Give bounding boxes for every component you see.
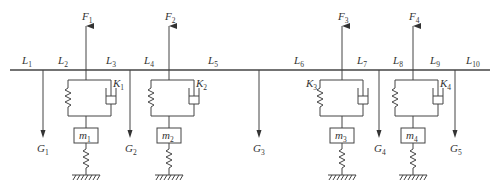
arrow-head-icon (377, 130, 382, 138)
weight-label-1: G1 (37, 142, 49, 157)
force-label-2: F2 (164, 10, 176, 25)
mass-label-1: m1 (79, 129, 91, 144)
damper-icon (358, 80, 368, 116)
arrow-head-icon (128, 130, 133, 138)
vehicle-suspension-diagram: L1L2L3L4L5L6L7L8L9L10 F1F2F3F4 G1G2G3G4G… (0, 0, 496, 190)
spring-icon (392, 80, 398, 116)
length-label-5: L5 (207, 54, 218, 69)
spring-icon (65, 80, 71, 116)
length-label-4: L4 (143, 54, 154, 69)
ground-icon (72, 175, 100, 180)
length-label-7: L7 (356, 54, 367, 69)
suspension-unit-1: K1m1 (65, 70, 124, 180)
length-label-10: L10 (465, 54, 480, 69)
length-label-8: L8 (392, 54, 403, 69)
arrow-head-icon (41, 130, 46, 138)
mass-label-2: m2 (162, 129, 174, 144)
spring-icon (317, 80, 323, 116)
length-label-2: L2 (57, 54, 68, 69)
ground-icon (155, 175, 183, 180)
length-label-9: L9 (429, 54, 440, 69)
stiffness-label-2: K2 (195, 77, 207, 92)
suspension-unit-3: K3m3 (305, 70, 368, 180)
stiffness-label-4: K4 (439, 77, 451, 92)
length-label-3: L3 (105, 54, 116, 69)
stiffness-label-1: K1 (112, 77, 124, 92)
weight-label-2: G2 (125, 142, 137, 157)
arrow-head-icon (257, 130, 262, 138)
ground-icon (328, 175, 356, 180)
length-label-1: L1 (21, 54, 32, 69)
suspension-unit-4: K4m4 (392, 70, 451, 180)
force-label-4: F4 (408, 10, 420, 25)
stiffness-label-3: K3 (305, 77, 317, 92)
weight-label-5: G5 (450, 142, 462, 157)
suspension-units: K1m1K2m2K3m3K4m4 (65, 70, 451, 180)
weight-label-3: G3 (253, 142, 265, 157)
tire-spring-icon (166, 143, 172, 175)
force-arrows: F1F2F3F4 (81, 10, 420, 70)
tire-spring-icon (83, 143, 89, 175)
spring-icon (148, 80, 154, 116)
length-labels: L1L2L3L4L5L6L7L8L9L10 (21, 54, 480, 69)
force-label-1: F1 (81, 10, 93, 25)
weight-arrows: G1G2G3G4G5 (37, 70, 462, 157)
length-label-6: L6 (293, 54, 304, 69)
mass-label-3: m3 (335, 129, 347, 144)
tire-spring-icon (339, 143, 345, 175)
arrow-head-icon (453, 130, 458, 138)
tire-spring-icon (410, 143, 416, 175)
force-label-3: F3 (337, 10, 349, 25)
mass-label-4: m4 (406, 129, 418, 144)
weight-label-4: G4 (374, 142, 386, 157)
suspension-unit-2: K2m2 (148, 70, 207, 180)
ground-icon (399, 175, 427, 180)
